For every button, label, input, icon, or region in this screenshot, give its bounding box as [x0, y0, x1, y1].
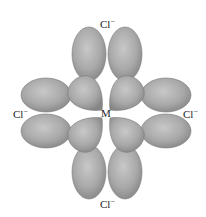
ligand-charge: −	[110, 17, 115, 26]
ligand-charge: −	[193, 107, 198, 116]
lobe-top-right	[108, 27, 142, 81]
lobe-left-upper	[21, 78, 71, 112]
lobe-bottom-left	[72, 145, 106, 199]
ligand-label-bottom: Cl−	[100, 198, 115, 210]
orbital-diagram: Cl− Cl− Cl− Cl− M	[0, 0, 206, 217]
lobe-bottom-right	[108, 145, 142, 199]
lobe-left-lower	[21, 114, 71, 148]
metal-center-label: M	[101, 108, 111, 119]
ligand-symbol: Cl	[13, 108, 23, 120]
ligand-symbol: Cl	[100, 198, 110, 210]
lobe-inner-upper-left	[68, 76, 103, 111]
lobe-top-left	[72, 27, 106, 81]
ligand-label-left: Cl−	[13, 108, 28, 120]
ligand-symbol: Cl	[183, 108, 193, 120]
lobe-inner-upper-right	[110, 76, 145, 111]
ligand-label-top: Cl−	[100, 18, 115, 30]
lobe-inner-lower-left	[68, 118, 103, 153]
lobe-inner-lower-right	[110, 118, 145, 153]
ligand-charge: −	[110, 197, 115, 206]
ligand-charge: −	[23, 107, 28, 116]
ligand-label-right: Cl−	[183, 108, 198, 120]
ligand-symbol: Cl	[100, 18, 110, 30]
lobe-right-upper	[141, 78, 191, 112]
